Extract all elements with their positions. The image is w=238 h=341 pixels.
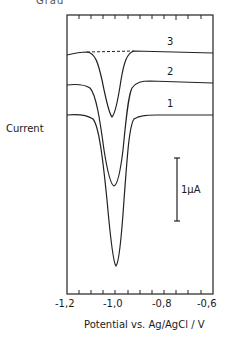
curve-label-3: 3 — [167, 37, 173, 47]
x-axis-label: Potential vs. Ag/AgCl / V — [84, 320, 205, 330]
cropped-caption: Grad — [36, 0, 64, 6]
plot-frame — [67, 15, 213, 294]
curve-label-1: 1 — [167, 99, 173, 109]
scale-bar — [174, 158, 180, 221]
voltammogram-plot — [0, 0, 238, 341]
scale-bar-label: 1µA — [181, 185, 201, 195]
x-tick-label: -0,6 — [197, 299, 217, 309]
y-axis-label: Current — [6, 124, 44, 134]
x-tick-label: -1,2 — [55, 299, 75, 309]
curve-3 — [67, 51, 213, 117]
curve-2 — [67, 81, 213, 186]
top-ticks — [79, 15, 201, 20]
x-tick-label: -1,0 — [103, 299, 123, 309]
curve-label-2: 2 — [167, 67, 173, 77]
curve-3-baseline — [87, 51, 134, 52]
x-tick-label: -0,8 — [152, 299, 172, 309]
